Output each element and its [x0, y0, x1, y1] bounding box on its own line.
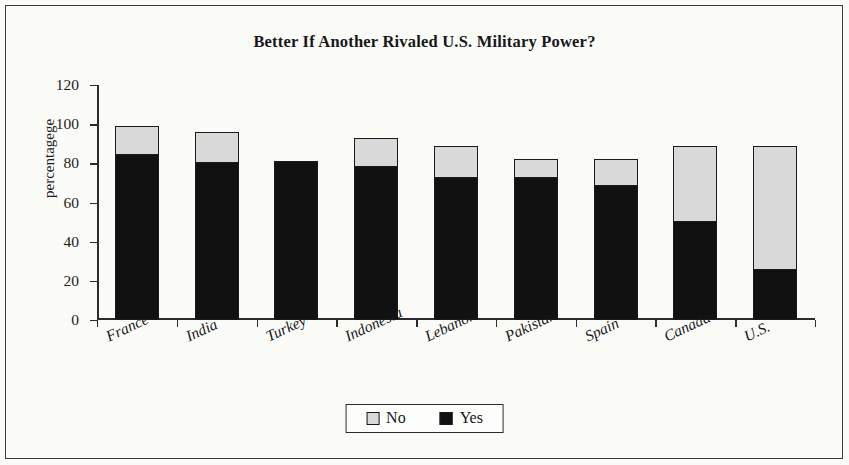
- bar-segment-yes: [354, 165, 398, 320]
- bar-segment-no: [195, 132, 239, 163]
- chart-page: Better If Another Rivaled U.S. Military …: [0, 0, 849, 465]
- bar-segment-yes: [673, 220, 717, 320]
- x-axis-tick: [576, 320, 577, 327]
- y-axis-tick: 40: [90, 242, 97, 243]
- x-axis-tick: [97, 320, 98, 327]
- x-axis-tick: [336, 320, 337, 327]
- bar-segment-no: [673, 146, 717, 222]
- y-axis-tick-label: 40: [64, 232, 80, 250]
- plot-area: 020406080100120: [97, 85, 815, 320]
- bar-segment-no: [354, 138, 398, 167]
- bar-segment-yes: [434, 177, 478, 320]
- x-axis-tick: [416, 320, 417, 327]
- chart-legend: NoYes: [345, 404, 504, 433]
- y-axis-tick: 120: [90, 85, 97, 86]
- bar-segment-yes: [594, 185, 638, 320]
- y-axis-tick-label: 20: [64, 271, 80, 289]
- x-axis-tick: [177, 320, 178, 327]
- bar-segment-no: [514, 159, 558, 178]
- y-axis-tick-label: 80: [64, 154, 80, 172]
- x-axis-tick: [257, 320, 258, 327]
- legend-item: No: [366, 409, 406, 427]
- y-axis-tick: 100: [90, 124, 97, 125]
- y-axis-tick: 20: [90, 281, 97, 282]
- y-axis-tick: 60: [90, 203, 97, 204]
- y-axis-tick: 80: [90, 163, 97, 164]
- bar-segment-yes: [274, 161, 318, 320]
- x-axis-tick: [496, 320, 497, 327]
- legend-swatch-no: [366, 412, 379, 425]
- x-axis-tick: [655, 320, 656, 327]
- legend-label: No: [386, 409, 406, 427]
- bar-segment-yes: [115, 154, 159, 320]
- y-axis-tick: 0: [90, 320, 97, 321]
- y-axis-tick-label: 0: [71, 311, 79, 329]
- chart-title: Better If Another Rivaled U.S. Military …: [0, 32, 849, 52]
- legend-label: Yes: [460, 409, 483, 427]
- y-axis-tick-label: 60: [64, 193, 80, 211]
- y-axis-tick-label: 120: [56, 76, 79, 94]
- bar-segment-yes: [753, 269, 797, 320]
- y-axis-line: [97, 85, 99, 320]
- bar-segment-yes: [514, 177, 558, 320]
- legend-item: Yes: [440, 409, 483, 427]
- legend-swatch-yes: [440, 412, 453, 425]
- y-axis-tick-label: 100: [56, 115, 79, 133]
- x-axis-tick: [735, 320, 736, 327]
- bar-segment-no: [115, 126, 159, 155]
- x-axis-tick: [815, 320, 816, 327]
- bar-segment-no: [434, 146, 478, 179]
- bar-segment-yes: [195, 161, 239, 320]
- bar-segment-no: [594, 159, 638, 186]
- bar-segment-no: [753, 146, 797, 271]
